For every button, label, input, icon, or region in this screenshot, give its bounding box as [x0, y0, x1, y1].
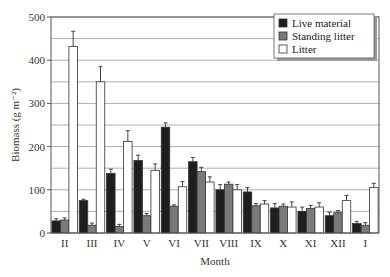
legend-swatch [279, 45, 287, 53]
bar-group-V [134, 155, 160, 233]
bar-group-IV [107, 131, 133, 233]
bar [260, 204, 269, 233]
x-tick-label: VIII [219, 237, 238, 249]
bar-group-VI [161, 123, 187, 233]
x-tick-label: I [363, 237, 367, 249]
bar [216, 190, 225, 233]
x-tick-label: III [87, 237, 98, 249]
y-tick-label: 300 [29, 97, 46, 109]
x-tick-label: II [61, 237, 69, 249]
x-axis-ticks: IIIIIIVVVIVIIVIIIIXXXIXIII [61, 237, 367, 249]
bar [60, 220, 69, 233]
x-axis-title: Month [200, 255, 230, 267]
bar [161, 127, 170, 233]
bar-group-II [52, 31, 77, 233]
bar [288, 207, 297, 233]
bar [361, 225, 370, 233]
legend-label: Litter [292, 43, 317, 55]
bar [298, 211, 307, 233]
bar [325, 216, 334, 233]
bar-group-XI [298, 203, 324, 233]
biomass-bar-chart: 0100200300400500 IIIIIIVVVIVIIVIIIIXXXIX… [0, 0, 390, 277]
bar [79, 201, 88, 233]
bar [252, 206, 261, 233]
bar-group-III [79, 67, 105, 233]
bar [271, 208, 280, 233]
bar-group-IX [243, 188, 269, 233]
legend-swatch [279, 32, 287, 40]
bar [233, 190, 242, 233]
bar [197, 172, 206, 233]
x-tick-label: IV [114, 237, 126, 249]
bar-group-VII [189, 157, 215, 233]
bar [370, 188, 379, 233]
bar [88, 225, 97, 233]
bar [342, 201, 351, 233]
bar [69, 46, 78, 233]
x-tick-label: VII [194, 237, 210, 249]
bar [224, 184, 233, 233]
y-tick-label: 100 [29, 184, 46, 196]
y-axis-ticks: 0100200300400500 [29, 11, 52, 239]
x-tick-label: X [279, 237, 287, 249]
legend-label: Standing litter [292, 30, 355, 42]
y-tick-label: 0 [40, 227, 46, 239]
x-tick-label: XI [305, 237, 317, 249]
bar-group-VIII [216, 182, 242, 233]
bar [189, 162, 198, 233]
bar [206, 182, 215, 233]
x-tick-label: XII [330, 237, 346, 249]
y-tick-label: 400 [29, 54, 46, 66]
bar [243, 192, 252, 233]
bar [151, 170, 160, 233]
bar [115, 227, 124, 233]
bar [107, 173, 116, 233]
bar [334, 213, 343, 233]
y-tick-label: 200 [29, 141, 46, 153]
bar [52, 221, 61, 233]
bar [315, 207, 324, 233]
bar [134, 160, 143, 233]
x-tick-label: IX [250, 237, 262, 249]
bar [142, 216, 151, 233]
y-axis-title: Biomass (g m⁻²) [9, 88, 22, 162]
x-tick-label: V [143, 237, 151, 249]
bar-group-XII [325, 195, 351, 233]
bar [353, 223, 362, 233]
legend-swatch [279, 19, 287, 27]
legend-label: Live material [292, 17, 351, 29]
bar-series [52, 31, 378, 233]
bar [96, 82, 105, 233]
bar [178, 187, 187, 233]
x-tick-label: VI [168, 237, 180, 249]
legend: Live materialStanding litterLitter [274, 14, 377, 61]
bar [306, 208, 315, 233]
bar [279, 206, 288, 233]
y-tick-label: 500 [29, 11, 46, 23]
bar [124, 141, 133, 233]
bar-group-X [271, 202, 297, 233]
bar-group-I [353, 183, 379, 233]
bar [170, 206, 179, 233]
